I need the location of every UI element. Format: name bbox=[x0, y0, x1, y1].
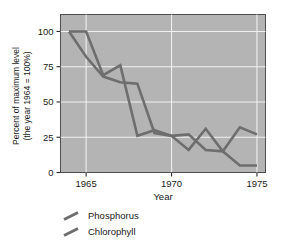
y-tick-label: 100 bbox=[38, 26, 54, 37]
y-tick-label: 0 bbox=[48, 167, 53, 178]
legend-label-phosphorus: Phosphorus bbox=[88, 210, 139, 221]
y-axis-title-line2: (the year 1964 = 100%) bbox=[22, 51, 32, 140]
legend-swatch-chlorophyll bbox=[64, 229, 78, 236]
x-axis-tickmarks bbox=[86, 173, 257, 177]
y-axis-title-line1: Percent of maximum level bbox=[11, 47, 21, 145]
y-tick-label: 25 bbox=[43, 132, 54, 143]
line-chart: 0255075100 196519701975 Percent of maxim… bbox=[0, 0, 282, 249]
plot-area-background bbox=[61, 15, 266, 173]
legend-swatch-phosphorus bbox=[64, 213, 78, 220]
x-tick-label: 1970 bbox=[161, 178, 182, 189]
x-axis-title: Year bbox=[153, 191, 172, 202]
y-tick-label: 50 bbox=[43, 96, 54, 107]
x-tick-label: 1975 bbox=[246, 178, 267, 189]
y-tick-label: 75 bbox=[43, 61, 54, 72]
x-axis-tick-labels: 196519701975 bbox=[76, 178, 268, 189]
x-tick-label: 1965 bbox=[76, 178, 97, 189]
legend-label-chlorophyll: Chlorophyll bbox=[88, 226, 136, 237]
chart-legend: PhosphorusChlorophyll bbox=[64, 210, 139, 237]
y-axis-tickmarks bbox=[57, 31, 61, 172]
chart-figure: 0255075100 196519701975 Percent of maxim… bbox=[0, 0, 282, 249]
y-axis-title: Percent of maximum level (the year 1964 … bbox=[11, 47, 32, 145]
y-axis-tick-labels: 0255075100 bbox=[38, 26, 54, 178]
